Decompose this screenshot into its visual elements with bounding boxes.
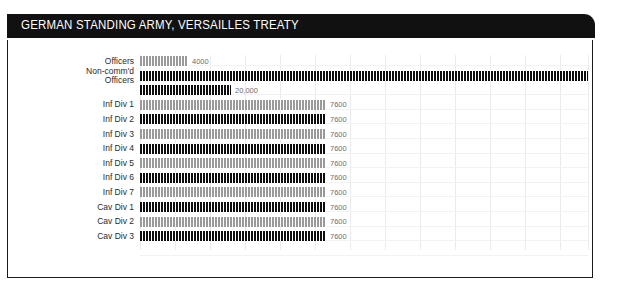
chart-row: Inf Div 27600 [0, 113, 619, 124]
row-label: Inf Div 1 [24, 100, 134, 109]
pictogram-bar [140, 113, 326, 124]
row-label: Inf Div 4 [24, 144, 134, 153]
row-label: Inf Div 6 [24, 173, 134, 182]
row-label: Inf Div 2 [24, 115, 134, 124]
row-label: Cav Div 1 [24, 202, 134, 211]
pictogram-bar [140, 99, 326, 110]
chart-row: Inf Div 17600 [0, 99, 619, 110]
pictogram-bar [140, 230, 326, 241]
pictogram-bar [140, 186, 326, 197]
pictogram-bar [140, 143, 326, 154]
row-label: Cav Div 3 [24, 231, 134, 240]
chart-row: Inf Div 57600 [0, 157, 619, 168]
row-label: Inf Div 7 [24, 188, 134, 197]
bar-value-label: 7600 [330, 129, 347, 138]
chart-row: Cav Div 17600 [0, 201, 619, 212]
bar-value-label: 4000 [192, 56, 209, 65]
chart-row: Inf Div 77600 [0, 186, 619, 197]
pictogram-bar [140, 128, 326, 139]
gridline-horizontal [140, 255, 588, 256]
bar-value-label: 7600 [330, 202, 347, 211]
chart-row: Cav Div 37600 [0, 230, 619, 241]
pictogram-bar [140, 201, 326, 212]
row-label: Cav Div 2 [24, 217, 134, 226]
chart-page: GERMAN STANDING ARMY, VERSAILLES TREATY … [0, 0, 619, 296]
pictogram-bar [140, 216, 326, 227]
bar-value-label: 7600 [330, 158, 347, 167]
bar-value-label: 7600 [330, 173, 347, 182]
row-label: Inf Div 3 [24, 129, 134, 138]
pictogram-bar [140, 84, 231, 95]
chart-row: 20,000 [0, 84, 619, 95]
pictogram-bar [140, 55, 188, 66]
page-title: GERMAN STANDING ARMY, VERSAILLES TREATY [21, 18, 299, 32]
row-label: Non-comm'dOfficers [24, 67, 134, 84]
row-label: Inf Div 5 [24, 158, 134, 167]
pictogram-bar [140, 172, 326, 183]
bar-value-label: 7600 [330, 187, 347, 196]
row-label: Officers [24, 56, 134, 65]
bar-value-label: 7600 [330, 217, 347, 226]
chart-row: Non-comm'dOfficers [0, 70, 619, 81]
chart-row: Officers4000 [0, 55, 619, 66]
bar-value-label: 7600 [330, 114, 347, 123]
pictogram-bar [140, 157, 326, 168]
chart-row: Inf Div 47600 [0, 143, 619, 154]
chart-row: Cav Div 27600 [0, 216, 619, 227]
bar-value-label: 7600 [330, 100, 347, 109]
bar-value-label: 7600 [330, 231, 347, 240]
bar-value-label: 20,000 [235, 85, 258, 94]
chart-row: Inf Div 37600 [0, 128, 619, 139]
bar-value-label: 7600 [330, 144, 347, 153]
chart-header-bar: GERMAN STANDING ARMY, VERSAILLES TREATY [7, 14, 595, 38]
chart-row: Inf Div 67600 [0, 172, 619, 183]
pictogram-bar [140, 70, 588, 81]
